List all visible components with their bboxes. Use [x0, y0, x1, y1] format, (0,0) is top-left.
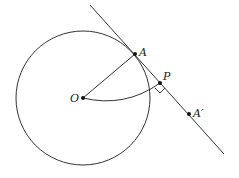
- tangent-line: [90, 5, 224, 154]
- label-a-prime: A′: [192, 107, 204, 120]
- label-a: A: [138, 46, 147, 59]
- label-p: P: [162, 70, 171, 83]
- point-o: [81, 96, 85, 100]
- geometry-diagram: O A P A′: [0, 0, 239, 178]
- point-a: [133, 52, 137, 56]
- segment-oa: [83, 54, 135, 98]
- label-o: O: [70, 92, 79, 105]
- right-angle-marker: [155, 88, 165, 93]
- point-a-prime: [187, 112, 191, 116]
- point-p: [158, 81, 162, 85]
